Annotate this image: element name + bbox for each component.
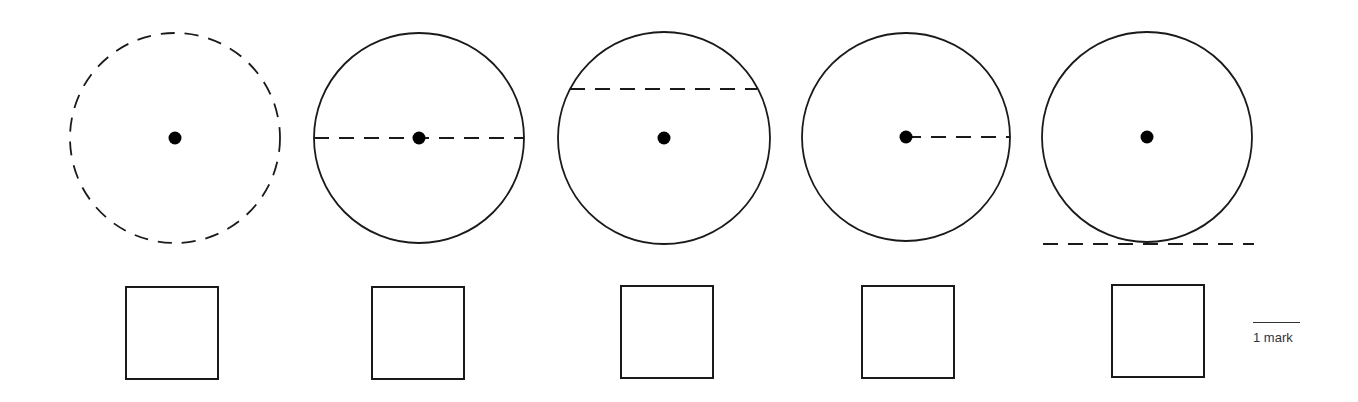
mark-rule bbox=[1253, 322, 1300, 323]
answer-box-2[interactable] bbox=[371, 286, 465, 380]
centre-dot bbox=[169, 132, 182, 145]
answer-box-4[interactable] bbox=[861, 285, 955, 379]
circle-2-diameter bbox=[314, 33, 524, 243]
mark-label: 1 mark bbox=[1253, 330, 1293, 345]
answer-box-5[interactable] bbox=[1111, 284, 1205, 378]
circle-4-radius bbox=[802, 33, 1010, 241]
centre-dot bbox=[900, 131, 913, 144]
answer-box-1[interactable] bbox=[125, 286, 219, 380]
centre-dot bbox=[413, 132, 426, 145]
centre-dot bbox=[1141, 131, 1154, 144]
circle-5-tangent bbox=[1042, 32, 1254, 244]
circle-3-chord bbox=[558, 32, 770, 244]
centre-dot bbox=[658, 132, 671, 145]
answer-box-3[interactable] bbox=[620, 285, 714, 379]
circle-1-circumference bbox=[70, 33, 280, 243]
